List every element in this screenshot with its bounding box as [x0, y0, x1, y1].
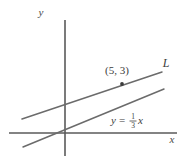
point-marker [120, 82, 124, 86]
y-axis-label: y [38, 6, 44, 18]
equation-equals-sign: = [119, 114, 125, 126]
line-L [22, 72, 162, 119]
equation-suffix: x [137, 114, 143, 126]
point-coordinate-label: (5, 3) [105, 64, 129, 77]
equation-variable: y [110, 114, 116, 126]
fraction-numerator: 1 [131, 112, 135, 121]
coordinate-graph-figure: y x L (5, 3) y = 1 3 x [0, 0, 181, 166]
equation-label: y = 1 3 x [110, 112, 143, 130]
line-L-label: L [162, 56, 170, 70]
fraction-denominator: 3 [131, 121, 135, 130]
x-axis-label: x [169, 133, 175, 145]
